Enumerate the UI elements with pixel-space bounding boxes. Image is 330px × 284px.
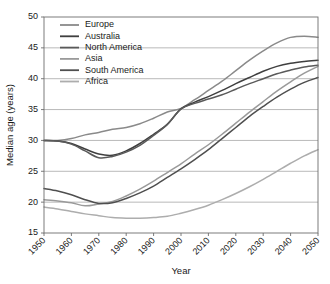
y-tick-label: 50 bbox=[28, 11, 38, 21]
x-tick-label: 1950 bbox=[26, 235, 47, 256]
y-axis-ticks: 1520253035404550 bbox=[28, 11, 44, 237]
median-age-line-chart: 1520253035404550 19501960197019801990200… bbox=[0, 0, 330, 284]
y-tick-label: 45 bbox=[28, 42, 38, 52]
y-tick-label: 35 bbox=[28, 104, 38, 114]
series-line-africa bbox=[44, 150, 318, 219]
data-series-lines bbox=[44, 36, 318, 218]
x-tick-label: 2000 bbox=[163, 235, 184, 256]
legend-label-europe: Europe bbox=[85, 19, 114, 29]
y-tick-label: 20 bbox=[28, 197, 38, 207]
x-tick-label: 1970 bbox=[81, 235, 102, 256]
x-axis-ticks: 1950196019701980199020002010202020302040… bbox=[26, 233, 321, 257]
legend-label-africa: Africa bbox=[85, 76, 108, 86]
x-tick-label: 2050 bbox=[300, 235, 321, 256]
x-tick-label: 2010 bbox=[191, 235, 212, 256]
legend-label-south-america: South America bbox=[85, 65, 144, 75]
legend-label-north-america: North America bbox=[85, 42, 142, 52]
chart-legend: EuropeAustraliaNorth AmericaAsiaSouth Am… bbox=[60, 19, 144, 86]
chart-canvas: 1520253035404550 19501960197019801990200… bbox=[0, 0, 330, 284]
legend-label-asia: Asia bbox=[85, 53, 103, 63]
x-tick-label: 2030 bbox=[245, 235, 266, 256]
y-axis-title: Median age (years) bbox=[4, 84, 15, 166]
y-tick-label: 30 bbox=[28, 135, 38, 145]
y-tick-label: 25 bbox=[28, 166, 38, 176]
series-line-asia bbox=[44, 66, 318, 206]
x-tick-label: 1960 bbox=[54, 235, 75, 256]
x-tick-label: 1980 bbox=[108, 235, 129, 256]
legend-label-australia: Australia bbox=[85, 31, 120, 41]
x-tick-label: 2020 bbox=[218, 235, 239, 256]
x-tick-label: 2040 bbox=[273, 235, 294, 256]
y-tick-label: 40 bbox=[28, 73, 38, 83]
y-tick-label: 15 bbox=[28, 227, 38, 237]
x-axis-title: Year bbox=[171, 265, 190, 276]
x-tick-label: 1990 bbox=[136, 235, 157, 256]
